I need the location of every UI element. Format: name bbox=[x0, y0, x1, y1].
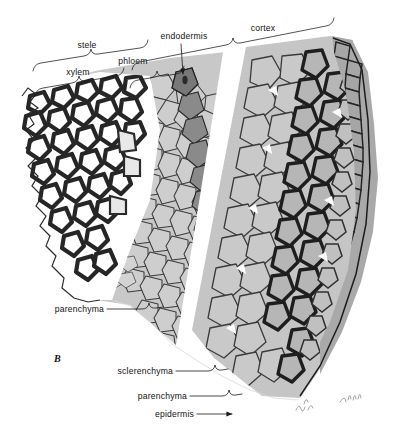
label-parenchyma-inner: parenchyma bbox=[55, 304, 104, 314]
label-sclerenchyma: sclerenchyma bbox=[118, 366, 173, 376]
root-cross-section-illustration: stele xylem phloem endodermis cortex par… bbox=[0, 0, 410, 442]
panel-label: B bbox=[53, 353, 61, 364]
label-parenchyma-outer: parenchyma bbox=[138, 391, 187, 401]
label-cortex: cortex bbox=[251, 23, 276, 33]
label-xylem: xylem bbox=[66, 67, 89, 77]
label-epidermis: epidermis bbox=[155, 409, 194, 419]
figure-panel: stele xylem phloem endodermis cortex par… bbox=[0, 0, 410, 442]
label-endodermis: endodermis bbox=[161, 31, 208, 41]
label-stele: stele bbox=[77, 40, 96, 50]
label-phloem: phloem bbox=[118, 56, 147, 66]
